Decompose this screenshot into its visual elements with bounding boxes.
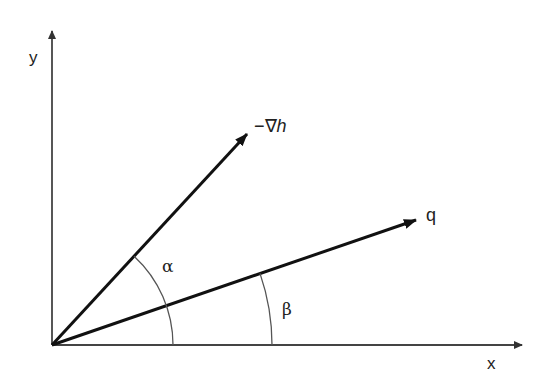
q-label: q [426,206,436,224]
x-axis-label: x [487,355,496,372]
negative-gradient-h-vector [52,134,247,345]
alpha-label: α [162,258,173,275]
beta-arc [260,273,272,345]
negative-gradient-h-label: −∇h [254,117,287,135]
y-axis-label: y [29,49,38,66]
q-vector [52,220,416,345]
negative-nabla-symbol: −∇ [254,116,277,136]
h-variable: h [277,116,287,136]
vector-diagram [0,0,550,389]
beta-label: β [282,301,292,318]
